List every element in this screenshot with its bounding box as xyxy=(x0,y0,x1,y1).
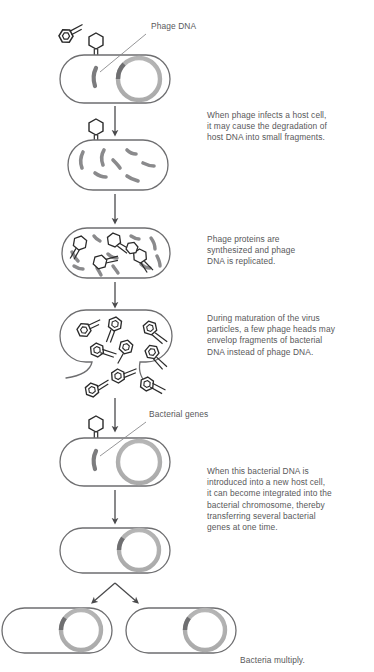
label-phage-dna: Phage DNA xyxy=(151,21,196,32)
caption-infection: When phage infects a host cell, it may c… xyxy=(207,110,367,144)
flow-arrow-6-left xyxy=(93,583,115,602)
label-bacterial-genes: Bacterial genes xyxy=(149,409,208,420)
free-phage-icon xyxy=(57,20,87,45)
stage-1-infection xyxy=(57,20,170,103)
caption-maturation: During maturation of the virus particles… xyxy=(207,313,373,358)
stage-4-maturation xyxy=(60,310,172,398)
stage-7-daughter-left xyxy=(2,608,112,653)
phage-dna-fragment xyxy=(94,68,96,86)
caption-multiply: Bacteria multiply. xyxy=(240,655,370,666)
stage-2-degradation xyxy=(68,119,168,190)
transduction-diagram: Phage DNA Bacterial genes When phage inf… xyxy=(0,0,374,672)
stage-3-synthesis xyxy=(62,228,170,278)
caption-integration: When this bacterial DNA is introduced in… xyxy=(207,466,373,533)
flow-arrow-6-right xyxy=(115,583,137,602)
stage-6-integrated xyxy=(60,528,170,573)
caption-synthesis: Phage proteins are synthesized and phage… xyxy=(207,234,367,268)
stage-7-daughter-right xyxy=(126,608,236,653)
bacterial-gene-fragment xyxy=(94,451,96,469)
